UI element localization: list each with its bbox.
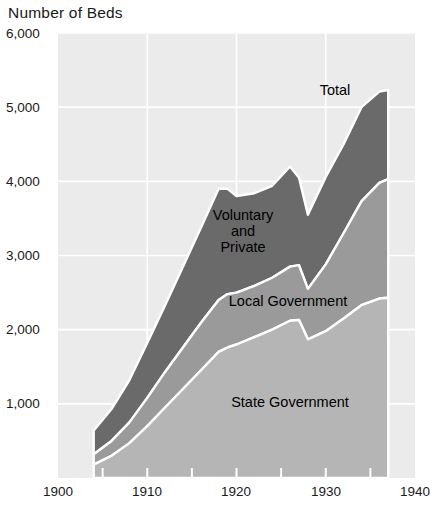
annotation-local-government-text: Local Government bbox=[229, 293, 347, 309]
annotation-voluntary-line-2: and bbox=[213, 223, 273, 239]
y-tick-label: 1,000 bbox=[6, 396, 58, 411]
x-tick-label: 1920 bbox=[221, 484, 251, 499]
annotation-state-government-text: State Government bbox=[231, 394, 349, 410]
annotation-voluntary-and-private: Voluntary and Private bbox=[213, 207, 273, 256]
y-axis-tick-labels: 6,000 5,000 4,000 3,000 2,000 1,000 bbox=[6, 0, 58, 518]
annotation-local-government: Local Government bbox=[229, 293, 347, 309]
y-tick-label: 5,000 bbox=[6, 100, 58, 115]
x-tick-label: 1940 bbox=[400, 484, 430, 499]
y-tick-label: 3,000 bbox=[6, 248, 58, 263]
y-tick-label: 6,000 bbox=[6, 26, 58, 41]
y-tick-label: 2,000 bbox=[6, 322, 58, 337]
annotation-state-government: State Government bbox=[231, 394, 349, 410]
chart-container: Number of Beds 6,000 5,000 4,000 3,000 2… bbox=[0, 0, 441, 518]
annotation-total-text: Total bbox=[320, 82, 351, 98]
y-tick-label: 4,000 bbox=[6, 174, 58, 189]
x-tick-label: 1910 bbox=[132, 484, 162, 499]
annotation-voluntary-line-3: Private bbox=[213, 239, 273, 255]
annotation-total: Total bbox=[320, 82, 351, 98]
x-tick-label: 1900 bbox=[43, 484, 73, 499]
x-tick-label: 1930 bbox=[311, 484, 341, 499]
annotation-voluntary-line-1: Voluntary bbox=[213, 207, 273, 223]
